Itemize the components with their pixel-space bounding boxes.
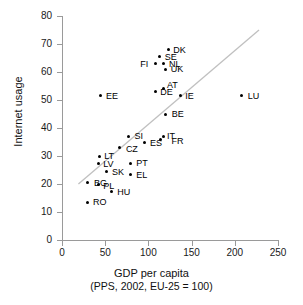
data-point (86, 201, 89, 204)
data-point-label: LU (248, 92, 260, 101)
y-tick-label: 10 (26, 207, 52, 217)
data-point-label: FI (140, 60, 148, 69)
x-tick-label: 250 (258, 248, 298, 258)
x-axis-title-line2: (PPS, 2002, EU-25 = 100) (0, 280, 303, 293)
data-point-label: CZ (126, 145, 138, 154)
data-point-label: SK (112, 168, 124, 177)
x-axis-title: GDP per capita (PPS, 2002, EU-25 = 100) (0, 267, 303, 293)
x-tick-label: 150 (172, 248, 212, 258)
data-point-label: RO (93, 198, 107, 207)
data-point (127, 135, 130, 138)
x-tick-mark (105, 241, 106, 246)
y-tick-label: 0 (26, 235, 52, 245)
data-point (99, 94, 102, 97)
data-point (154, 62, 157, 65)
y-tick-label: 80 (26, 11, 52, 21)
x-tick-label: 100 (128, 248, 168, 258)
data-point (154, 90, 157, 93)
data-point (129, 173, 132, 176)
x-tick-label: 50 (85, 248, 125, 258)
x-tick-mark (278, 241, 279, 246)
data-point (105, 170, 108, 173)
scatter-chart: 01020304050607080 050100150200250 Intern… (0, 0, 303, 305)
data-point (97, 162, 100, 165)
y-tick-label: 20 (26, 179, 52, 189)
data-point (110, 190, 113, 193)
data-point (167, 48, 170, 51)
y-tick-label: 50 (26, 95, 52, 105)
data-point (164, 113, 167, 116)
data-point-label: HU (117, 188, 130, 197)
x-axis-line (62, 240, 279, 241)
x-tick-mark (62, 241, 63, 246)
x-tick-mark (192, 241, 193, 246)
x-tick-mark (235, 241, 236, 246)
data-point (97, 183, 100, 186)
data-point-label: PT (136, 159, 148, 168)
data-point-label: DE (160, 88, 173, 97)
data-point-label: BE (172, 110, 184, 119)
data-point-label: UK (171, 65, 184, 74)
y-axis-title: Internet usage (13, 47, 24, 177)
data-point-label: SI (135, 132, 144, 141)
y-tick-label: 70 (26, 39, 52, 49)
y-tick-label: 40 (26, 123, 52, 133)
x-tick-label: 0 (42, 248, 82, 258)
data-point-label: EL (136, 171, 147, 180)
y-tick-label: 30 (26, 151, 52, 161)
data-point-label: FR (171, 137, 183, 146)
x-axis-title-line1: GDP per capita (0, 267, 303, 280)
data-point (129, 162, 132, 165)
data-point-label: EE (106, 92, 118, 101)
y-tick-label: 60 (26, 67, 52, 77)
data-point (98, 155, 101, 158)
data-point-label: ES (150, 139, 162, 148)
data-point (162, 135, 165, 138)
data-point (164, 68, 167, 71)
data-point-label: IE (185, 92, 194, 101)
x-tick-label: 200 (215, 248, 255, 258)
x-tick-mark (148, 241, 149, 246)
